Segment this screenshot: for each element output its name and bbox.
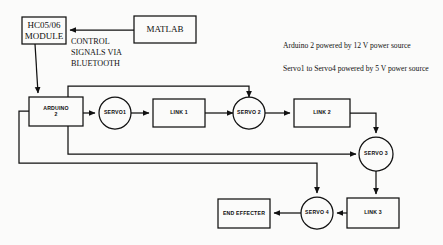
power-servos-annotation: Servo1 to Servo4 powered by 5 V power so… [283, 64, 429, 73]
servo3-circle [359, 137, 393, 171]
edge-link2-to-servo3 [350, 113, 376, 133]
arduino-box [29, 97, 83, 126]
bluetooth-annotation: CONTROL SIGNALS VIA BLUETOOTH [71, 37, 122, 69]
link2-box [294, 99, 350, 127]
servo1-circle [99, 97, 131, 129]
edge-arduino-to-servo2-control [68, 86, 249, 97]
end-effecter-box [218, 199, 270, 228]
servo2-circle [233, 97, 265, 129]
edge-arduino-to-servo3-control [68, 126, 356, 154]
diagram-graphics [0, 0, 443, 245]
link1-box [153, 99, 205, 127]
power-arduino-annotation: Arduino 2 powered by 12 V power source [283, 41, 411, 50]
edge-hc-module-to-arduino [35, 44, 38, 93]
servo4-circle [301, 197, 333, 229]
link3-box [347, 198, 399, 228]
block-diagram-canvas: MATLAB HC05/06 MODULE ARDUINO 2 SERVO1 L… [0, 0, 443, 245]
matlab-box [134, 16, 196, 43]
edge-arduino-to-servo4-control [19, 111, 317, 193]
hc-module-box [22, 17, 66, 44]
